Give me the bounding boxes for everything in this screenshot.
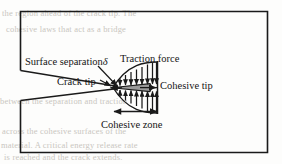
figure-container: the region ahead of the crack tip. The c… — [0, 0, 282, 164]
delta-symbol: δ — [103, 56, 108, 67]
separation-wedge — [111, 84, 158, 92]
label-cohesive-zone: Cohesive zone — [101, 120, 163, 131]
label-crack-tip: Crack tip — [57, 77, 96, 88]
cohesive-zone-drawing — [0, 0, 282, 164]
surface-separation-leader — [98, 66, 117, 86]
label-cohesive-tip: Cohesive tip — [160, 81, 213, 92]
label-surface-separation: Surface separationδ — [25, 57, 108, 68]
label-surface-separation-text: Surface separation — [25, 56, 103, 67]
label-traction-force: Traction force — [120, 54, 179, 65]
